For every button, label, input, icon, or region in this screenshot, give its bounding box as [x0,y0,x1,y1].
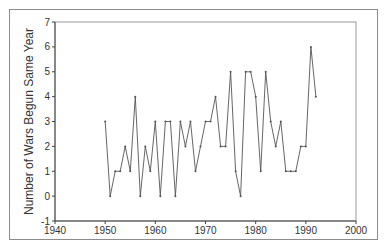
data-point [149,170,151,172]
y-axis-title: Number of Wars Begun Same Year [22,28,36,215]
data-point [134,96,136,98]
data-point [215,96,217,98]
line-chart: -1012345671940195019601970198019902000Nu… [0,0,389,247]
data-point [275,145,277,147]
data-point [250,71,252,73]
y-tick-label: 5 [44,66,50,77]
data-point [154,121,156,123]
y-tick-label: 2 [44,141,50,152]
data-point [225,145,227,147]
data-point [255,96,257,98]
data-point [205,121,207,123]
data-point [109,195,111,197]
data-point [315,96,317,98]
data-point [174,195,176,197]
x-tick-label: 1960 [144,225,167,236]
x-tick-label: 1980 [245,225,268,236]
data-point [129,170,131,172]
y-tick-label: 1 [44,166,50,177]
data-point [280,121,282,123]
y-tick-label: 3 [44,116,50,127]
data-point [260,170,262,172]
data-point [124,145,126,147]
x-tick-label: 1950 [94,225,117,236]
data-point [139,195,141,197]
y-tick-label: 0 [44,191,50,202]
data-point [104,121,106,123]
data-point [114,170,116,172]
x-tick-label: 2000 [345,225,368,236]
data-point [189,121,191,123]
data-point [210,121,212,123]
data-point [169,121,171,123]
x-tick-label: 1990 [295,225,318,236]
y-tick-label: 4 [44,91,50,102]
data-point [240,195,242,197]
y-tick-label: 6 [44,41,50,52]
data-point [270,121,272,123]
data-point [184,145,186,147]
data-point [290,170,292,172]
data-point [220,145,222,147]
data-point [164,121,166,123]
data-point [305,145,307,147]
data-point [245,71,247,73]
y-tick-label: 7 [44,17,50,28]
data-point [265,71,267,73]
data-point [159,195,161,197]
data-point [295,170,297,172]
data-point [285,170,287,172]
data-point [300,145,302,147]
data-point [199,145,201,147]
x-tick-label: 1970 [194,225,217,236]
data-point [194,170,196,172]
data-point [230,71,232,73]
data-point [179,121,181,123]
data-point [235,170,237,172]
data-point [119,170,121,172]
x-tick-label: 1940 [44,225,67,236]
data-point [310,46,312,48]
data-point [144,145,146,147]
